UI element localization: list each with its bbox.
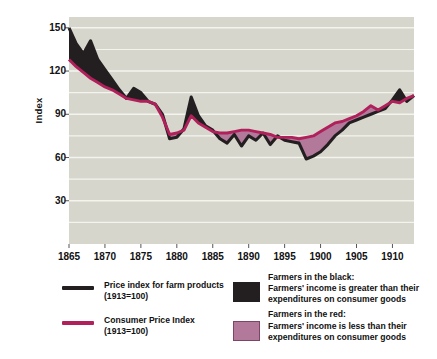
- x-tick-label: 1885: [193, 251, 233, 263]
- y-tick-label: 90: [32, 109, 66, 119]
- legend-line-farm-products: [62, 286, 94, 290]
- legend-label-red-line2: Farmers' income is less than their: [268, 321, 407, 332]
- x-tick-label: 1905: [337, 251, 377, 263]
- legend-label-black-line1: Farmers in the black:: [268, 272, 354, 283]
- x-tick-label: 1895: [265, 251, 305, 263]
- chart-legend: Price index for farm products (1913=100)…: [0, 276, 437, 358]
- y-tick-label: 150: [32, 23, 66, 33]
- legend-label-cpi-line2: (1913=100): [104, 326, 148, 337]
- y-axis-tick-labels: 150120906030: [26, 0, 66, 250]
- x-tick-label: 1900: [301, 251, 341, 263]
- legend-swatch-in-the-red: [233, 321, 260, 341]
- legend-label-red-line1: Farmers in the red:: [268, 309, 346, 320]
- x-tick-label: 1865: [49, 251, 89, 263]
- legend-swatch-in-the-black: [233, 282, 260, 302]
- y-tick-label: 120: [32, 66, 66, 76]
- y-tick-label: 60: [32, 153, 66, 163]
- x-axis-tick-labels: 1865187018751880188518901895190019051910: [0, 249, 437, 265]
- legend-label-red-line3: expenditures on consumer goods: [268, 332, 406, 343]
- legend-label-farm-products-line1: Price index for farm products: [104, 280, 224, 291]
- x-tick-label: 1890: [229, 251, 269, 263]
- legend-label-black-line3: expenditures on consumer goods: [268, 294, 406, 305]
- y-tick-label: 30: [32, 196, 66, 206]
- legend-label-cpi-line1: Consumer Price Index: [104, 315, 195, 326]
- x-tick-label: 1870: [85, 251, 125, 263]
- x-tick-label: 1875: [121, 251, 161, 263]
- legend-label-farm-products-line2: (1913=100): [104, 291, 148, 302]
- chart-figure: Index 150120906030 186518701875188018851…: [0, 0, 437, 359]
- x-tick-label: 1880: [157, 251, 197, 263]
- x-tick-label: 1910: [372, 251, 412, 263]
- legend-line-consumer-price-index: [62, 321, 94, 325]
- legend-label-black-line2: Farmers' income is greater than their: [268, 283, 419, 294]
